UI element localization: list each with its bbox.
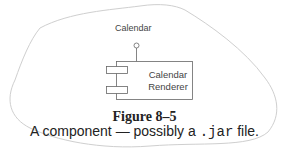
component-name-line2: Renderer xyxy=(143,81,193,93)
component-port-1 xyxy=(107,67,128,74)
component-name: Calendar Renderer xyxy=(143,69,193,93)
interface-lollipop-icon xyxy=(134,43,139,48)
interface-label: Calendar xyxy=(115,23,152,33)
component-port-2 xyxy=(107,87,128,94)
figure-caption: A component — possibly a .jar file. xyxy=(0,123,289,140)
caption-text: A component — possibly a xyxy=(30,123,200,139)
caption-text-end: file. xyxy=(233,123,259,139)
caption-code: .jar xyxy=(200,124,234,140)
component-name-line1: Calendar xyxy=(143,69,193,81)
